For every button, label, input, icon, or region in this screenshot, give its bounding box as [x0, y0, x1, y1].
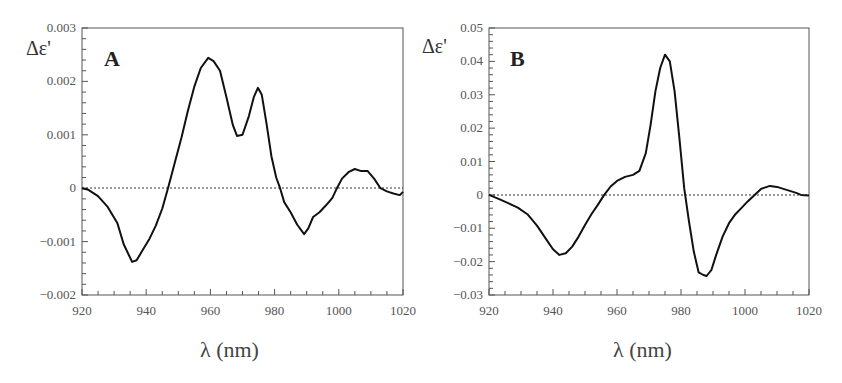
y-tick-label: 0: [70, 180, 77, 195]
figure: 920940960980100010200.0030.0020.0010−0.0…: [0, 0, 842, 383]
x-tick-label: 1020: [796, 303, 822, 318]
x-axis-title-b: λ (nm): [613, 337, 672, 362]
plot-frame-b: [489, 28, 809, 295]
x-tick-label: 960: [607, 303, 627, 318]
x-tick-label: 920: [479, 303, 499, 318]
x-tick-label: 1000: [326, 303, 352, 318]
x-tick-label: 940: [543, 303, 563, 318]
x-tick-label: 920: [72, 303, 92, 318]
y-tick-label: −0.01: [453, 220, 483, 235]
y-tick-label: 0.001: [47, 127, 76, 142]
data-line-b: [489, 55, 809, 276]
y-tick-label: 0.03: [460, 87, 483, 102]
x-tick-label: 960: [201, 303, 221, 318]
y-tick-label: −0.02: [453, 254, 483, 269]
x-tick-label: 980: [671, 303, 691, 318]
y-tick-label: −0.001: [39, 234, 76, 249]
y-axis-title-a: Δε': [26, 37, 51, 59]
chart-panel-b: 920940960980100010200.050.040.030.020.01…: [422, 20, 822, 362]
y-tick-label: 0.05: [460, 20, 483, 35]
chart-panel-a: 920940960980100010200.0030.0020.0010−0.0…: [26, 20, 416, 362]
x-tick-label: 940: [136, 303, 156, 318]
panel-label-a: A: [104, 46, 120, 71]
x-tick-label: 980: [265, 303, 285, 318]
x-tick-label: 1000: [732, 303, 758, 318]
data-line-a: [82, 58, 403, 262]
y-tick-label: 0.02: [460, 120, 483, 135]
y-axis-title-b: Δε': [422, 35, 447, 57]
y-tick-label: −0.002: [39, 287, 76, 302]
y-tick-label: 0.002: [47, 73, 76, 88]
y-tick-label: 0.01: [460, 154, 483, 169]
x-axis-title-a: λ (nm): [200, 337, 259, 362]
axis-ticks-b: 920940960980100010200.050.040.030.020.01…: [453, 20, 822, 318]
panel-label-b: B: [510, 46, 525, 71]
y-tick-label: 0.04: [460, 53, 483, 68]
plot-frame-a: [82, 28, 403, 295]
x-tick-label: 1020: [390, 303, 416, 318]
y-tick-label: 0: [477, 187, 484, 202]
y-tick-label: −0.03: [453, 287, 483, 302]
axis-ticks-a: 920940960980100010200.0030.0020.0010−0.0…: [39, 20, 416, 318]
y-tick-label: 0.003: [47, 20, 76, 35]
